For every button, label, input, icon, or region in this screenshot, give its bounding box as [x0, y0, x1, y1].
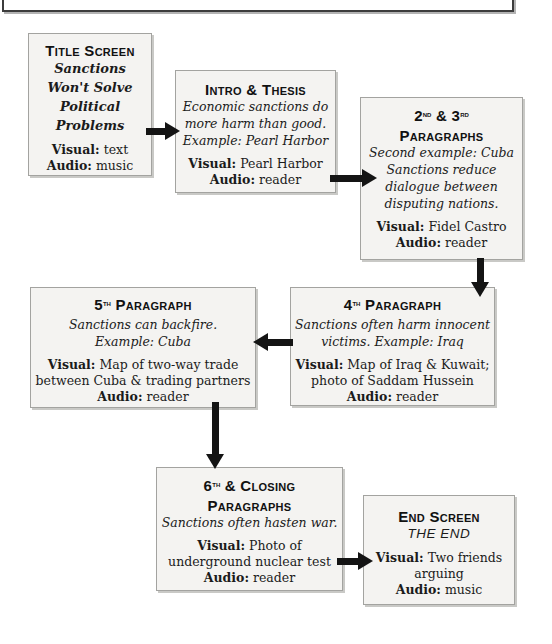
- audio-value: reader: [147, 389, 189, 404]
- audio-value: reader: [396, 389, 438, 404]
- arrow-head: [165, 122, 180, 140]
- panel-heading-line2: Paragraphs: [361, 127, 522, 144]
- visual-line: Visual: Map of two-way trade: [31, 357, 255, 373]
- audio-label: Audio:: [210, 172, 255, 187]
- script-line: Example: Pearl Harbor: [176, 132, 335, 149]
- audio-label: Audio:: [47, 158, 92, 173]
- audio-value: reader: [253, 570, 295, 585]
- spacer: [291, 350, 494, 357]
- audio-value: reader: [445, 235, 487, 250]
- script-line: more harm than good.: [176, 115, 335, 132]
- audio-value: music: [96, 158, 133, 173]
- storyboard-panel-title-screen: Title Screen Sanctions Won't Solve Polit…: [28, 33, 152, 176]
- heading-number: 5: [94, 296, 103, 313]
- audio-line: Audio: reader: [157, 570, 342, 586]
- script-line: Economic sanctions do: [176, 98, 335, 115]
- spacer: [176, 149, 335, 156]
- panel-heading: 5th Paragraph: [31, 296, 255, 316]
- arrow-paragraphs-2-3-to-paragraph-4: [471, 258, 489, 297]
- arrow-head: [358, 552, 373, 570]
- visual-value: Pearl Harbor: [240, 156, 322, 171]
- panel-heading-line2: Paragraphs: [157, 497, 342, 514]
- ordinal-suffix: th: [352, 298, 360, 308]
- ordinal-suffix: th: [212, 479, 220, 489]
- spacer: [29, 135, 151, 142]
- spacer: [31, 350, 255, 357]
- panel-heading: Intro & Thesis: [176, 81, 335, 98]
- script-line: Sanctions can backfire.: [31, 316, 255, 333]
- script-line: disputing nations.: [361, 195, 522, 212]
- arrow-paragraph-5-to-paragraphs-6-closing: [206, 402, 224, 469]
- visual-line: Visual: Fidel Castro: [361, 219, 522, 235]
- spacer: [157, 531, 342, 538]
- visual-line-2: arguing: [364, 566, 514, 582]
- script-line: victims. Example: Iraq: [291, 333, 494, 350]
- storyboard-canvas: Title Screen Sanctions Won't Solve Polit…: [0, 0, 552, 644]
- arrow-head: [471, 282, 489, 297]
- audio-line: Audio: reader: [291, 389, 494, 405]
- visual-label: Visual:: [295, 357, 343, 372]
- arrow-paragraph-4-to-paragraph-5: [253, 333, 293, 351]
- ordinal-suffix: rd: [460, 109, 469, 119]
- script-line: Example: Cuba: [31, 333, 255, 350]
- arrow-shaft: [212, 402, 219, 454]
- visual-label: Visual:: [188, 156, 236, 171]
- visual-value: text: [104, 142, 129, 157]
- title-line: Sanctions: [29, 59, 151, 78]
- storyboard-panel-paragraph-4: 4th Paragraph Sanctions often harm innoc…: [290, 287, 495, 406]
- panel-heading: 2nd & 3rd: [361, 107, 522, 127]
- arrow-intro-to-paragraphs-2-3: [330, 169, 377, 187]
- visual-value: Photo of: [249, 538, 302, 553]
- visual-value: Two friends: [428, 550, 503, 565]
- visual-line: Visual: Two friends: [364, 550, 514, 566]
- arrow-head: [253, 333, 268, 351]
- heading-text: Paragraph: [360, 296, 441, 313]
- audio-value: reader: [259, 172, 301, 187]
- script-line: dialogue between: [361, 178, 522, 195]
- heading-ampersand: &: [431, 107, 451, 124]
- visual-label: Visual:: [377, 219, 425, 234]
- storyboard-panel-intro-thesis: Intro & Thesis Economic sanctions do mor…: [175, 70, 336, 193]
- script-line: Sanctions often harm innocent: [291, 316, 494, 333]
- ordinal-suffix: nd: [423, 109, 432, 119]
- visual-value: Map of Iraq & Kuwait;: [347, 357, 489, 372]
- panel-heading: Title Screen: [29, 42, 151, 59]
- arrow-shaft: [477, 258, 484, 282]
- spacer: [361, 212, 522, 219]
- arrow-head: [362, 169, 377, 187]
- heading-text: Paragraph: [111, 296, 192, 313]
- ordinal-suffix: th: [103, 298, 111, 308]
- audio-line: Audio: music: [29, 158, 151, 174]
- storyboard-panel-paragraph-5: 5th Paragraph Sanctions can backfire. Ex…: [30, 287, 256, 408]
- visual-value: Map of two-way trade: [99, 357, 238, 372]
- audio-line: Audio: reader: [176, 172, 335, 188]
- arrow-paragraphs-6-closing-to-end-screen: [337, 552, 373, 570]
- script-line: Sanctions reduce: [361, 161, 522, 178]
- visual-line-2: underground nuclear test: [157, 554, 342, 570]
- heading-number: 6: [204, 477, 213, 494]
- cropped-top-box: [2, 0, 514, 12]
- audio-line: Audio: music: [364, 582, 514, 598]
- panel-heading: End Screen: [364, 508, 514, 525]
- visual-label: Visual:: [48, 357, 96, 372]
- visual-line: Visual: Map of Iraq & Kuwait;: [291, 357, 494, 373]
- visual-line-2: between Cuba & trading partners: [31, 373, 255, 389]
- title-line: Won't Solve: [29, 78, 151, 97]
- end-text: THE END: [364, 525, 514, 543]
- visual-label: Visual:: [376, 550, 424, 565]
- visual-label: Visual:: [197, 538, 245, 553]
- storyboard-panel-paragraphs-2-3: 2nd & 3rd Paragraphs Second example: Cub…: [360, 97, 523, 260]
- heading-number: 3: [452, 107, 461, 124]
- arrow-head: [206, 454, 224, 469]
- title-line: Political: [29, 97, 151, 116]
- audio-label: Audio:: [396, 582, 441, 597]
- panel-heading: 6th & Closing: [157, 477, 342, 497]
- arrow-shaft: [268, 339, 293, 346]
- audio-label: Audio:: [97, 389, 142, 404]
- visual-value: Fidel Castro: [428, 219, 506, 234]
- heading-number: 2: [414, 107, 423, 124]
- arrow-shaft: [146, 128, 165, 135]
- audio-label: Audio:: [204, 570, 249, 585]
- spacer: [364, 543, 514, 550]
- audio-label: Audio:: [396, 235, 441, 250]
